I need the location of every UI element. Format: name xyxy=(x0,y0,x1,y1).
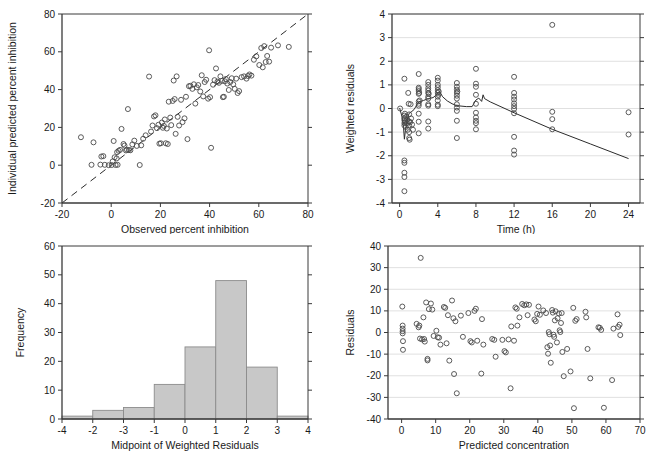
data-point xyxy=(416,111,421,116)
data-point xyxy=(428,301,433,306)
data-point xyxy=(265,53,270,58)
data-point xyxy=(502,349,507,354)
y-tick-label: -3 xyxy=(376,174,385,185)
data-point xyxy=(469,340,474,345)
data-point xyxy=(568,369,573,374)
data-point xyxy=(473,110,478,115)
x-axis-title: Time (h) xyxy=(497,223,536,234)
data-point xyxy=(147,74,152,79)
x-tick-label: 30 xyxy=(498,425,510,436)
y-tick-label: -1 xyxy=(376,127,385,138)
data-point xyxy=(402,189,407,194)
data-point xyxy=(479,371,484,376)
y-tick-label: -4 xyxy=(376,198,385,209)
data-point xyxy=(421,315,426,320)
data-point xyxy=(179,97,184,102)
data-point xyxy=(416,131,421,136)
data-point xyxy=(119,126,124,131)
diagnostic-plots-figure: -20020406080-20020406080Observed percent… xyxy=(0,0,660,468)
y-tick-label: 60 xyxy=(44,46,56,57)
x-tick-label: 70 xyxy=(634,425,646,436)
y-tick-label: 20 xyxy=(44,356,56,367)
data-point xyxy=(615,312,620,317)
y-tick-label: 40 xyxy=(44,298,56,309)
data-point xyxy=(153,113,158,118)
data-point xyxy=(174,74,179,79)
y-tick-label: 20 xyxy=(44,122,56,133)
data-point xyxy=(454,118,459,123)
data-point xyxy=(214,66,219,71)
x-tick-label: 4 xyxy=(435,209,441,220)
y-tick-label: 10 xyxy=(370,305,382,316)
y-tick-label: -20 xyxy=(367,370,382,381)
y-tick-label: 50 xyxy=(44,269,56,280)
data-point xyxy=(550,117,555,122)
data-point xyxy=(445,313,450,318)
data-point xyxy=(78,135,83,140)
data-point xyxy=(546,351,551,356)
y-tick-label: 1 xyxy=(379,79,385,90)
histogram-bar xyxy=(93,410,124,419)
data-point xyxy=(509,324,514,329)
trend-line xyxy=(400,91,629,158)
x-tick-label: 1 xyxy=(213,425,219,436)
data-point xyxy=(400,347,405,352)
data-point xyxy=(558,320,563,325)
y-tick-label: 30 xyxy=(370,262,382,273)
data-point xyxy=(585,346,590,351)
data-point xyxy=(450,298,455,303)
x-tick-label: 60 xyxy=(600,425,612,436)
x-tick-label: 10 xyxy=(430,425,442,436)
data-point xyxy=(416,119,421,124)
data-point xyxy=(438,342,443,347)
data-point xyxy=(479,317,484,322)
y-tick-label: 2 xyxy=(379,56,385,67)
data-point xyxy=(536,304,541,309)
y-tick-label: 40 xyxy=(370,241,382,252)
data-point xyxy=(406,90,411,95)
panel-residuals-vs-predicted-concentration: -40-30-20-10010203040010203040506070Pred… xyxy=(330,234,660,468)
data-point xyxy=(447,358,452,363)
data-point xyxy=(410,127,415,132)
y-tick-label: 30 xyxy=(44,327,56,338)
y-tick-label: -10 xyxy=(367,349,382,360)
x-tick-label: 40 xyxy=(204,209,216,220)
x-tick-label: 0 xyxy=(397,209,403,220)
data-point xyxy=(251,57,256,62)
data-point xyxy=(560,349,565,354)
y-tick-label: 4 xyxy=(379,9,385,20)
data-point xyxy=(175,114,180,119)
data-point xyxy=(508,386,513,391)
y-tick-label: 0 xyxy=(49,414,55,425)
data-point xyxy=(458,313,463,318)
x-tick-label: 60 xyxy=(253,209,265,220)
y-tick-label: 0 xyxy=(379,103,385,114)
data-point xyxy=(565,346,570,351)
y-tick-label: 60 xyxy=(44,241,56,252)
data-point xyxy=(473,92,478,97)
x-tick-label: 20 xyxy=(585,209,597,220)
data-point xyxy=(506,337,511,342)
y-tick-label: -20 xyxy=(41,198,56,209)
data-point xyxy=(454,108,459,113)
data-point xyxy=(254,54,259,59)
identity-reference-line xyxy=(62,14,308,203)
data-point xyxy=(400,339,405,344)
data-point xyxy=(267,59,272,64)
data-point xyxy=(424,300,429,305)
data-point xyxy=(199,73,204,78)
data-point xyxy=(286,44,291,49)
data-point xyxy=(169,123,174,128)
y-tick-label: 0 xyxy=(375,327,381,338)
x-tick-label: 4 xyxy=(305,425,311,436)
data-point xyxy=(125,107,130,112)
data-point xyxy=(183,94,188,99)
data-point xyxy=(162,117,167,122)
data-point xyxy=(550,22,555,27)
y-tick-label: 0 xyxy=(49,160,55,171)
x-tick-label: 40 xyxy=(532,425,544,436)
data-point xyxy=(512,134,517,139)
data-point xyxy=(426,119,431,124)
x-tick-label: 80 xyxy=(302,209,314,220)
data-point xyxy=(454,136,459,141)
